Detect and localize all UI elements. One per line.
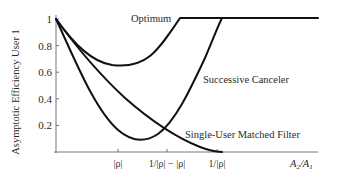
y-axis-title: Asymptotic Efficiency User 1	[10, 29, 21, 154]
x-tick-inv-rho: 1/|ρ|	[209, 158, 226, 169]
y-tick-1: 1	[47, 13, 53, 25]
x-axis-title: A2/A1	[289, 158, 313, 171]
y-tick-0.6: 0.6	[38, 66, 52, 78]
x-tick-labels: |ρ| 1/|ρ| − |ρ| 1/|ρ|	[114, 158, 226, 169]
label-single-user-matched-filter: Single-User Matched Filter	[185, 129, 300, 140]
optimum-curve	[56, 18, 318, 66]
y-tick-0.2: 0.2	[38, 119, 52, 131]
label-successive-canceler: Successive Canceler	[203, 74, 290, 85]
y-tick-labels: 1 0.8 0.6 0.4 0.2	[38, 13, 52, 131]
y-tick-0.8: 0.8	[38, 40, 52, 52]
label-optimum: Optimum	[131, 13, 171, 24]
x-tick-inv-rho-minus-rho: 1/|ρ| − |ρ|	[149, 158, 185, 169]
x-tick-rho: |ρ|	[114, 158, 123, 169]
efficiency-chart: 1 0.8 0.6 0.4 0.2 Asymptotic Efficiency …	[0, 0, 343, 180]
y-tick-0.4: 0.4	[38, 93, 52, 105]
successive-canceler-curve	[56, 18, 222, 140]
